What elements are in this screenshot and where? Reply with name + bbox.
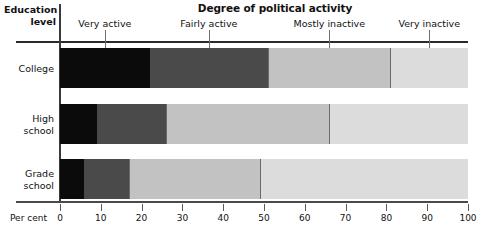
bar-high-school: [60, 104, 468, 144]
x-axis-title: Per cent: [10, 213, 47, 223]
x-tick-label: 100: [459, 213, 476, 223]
x-tick-label: 90: [421, 213, 432, 223]
bar-segment-fairly-active: [150, 48, 268, 88]
bar-grade-school: [60, 159, 468, 199]
bar-segment-very-inactive: [390, 48, 468, 88]
chart-title: Degree of political activity: [130, 2, 420, 14]
plot-bottom-rule: [16, 201, 468, 203]
legend-label-very-active: Very active: [78, 18, 131, 29]
category-label-1: College: [0, 63, 54, 75]
bar-segment-mostly-inactive: [129, 159, 260, 199]
x-tick-label: 60: [299, 213, 310, 223]
x-tick-label: 20: [136, 213, 147, 223]
legend-label-very-inactive: Very inactive: [398, 18, 460, 29]
x-tick-label: 50: [258, 213, 269, 223]
bar-segment-very-inactive: [329, 104, 468, 144]
x-tick: [142, 204, 143, 211]
bar-segment-very-active: [60, 159, 84, 199]
x-tick: [223, 204, 224, 211]
category-label-3: Gradeschool: [0, 168, 54, 191]
x-tick: [182, 204, 183, 211]
bar-college: [60, 48, 468, 88]
x-tick-label: 80: [381, 213, 392, 223]
plot-top-rule: [16, 41, 468, 43]
bar-segment-mostly-inactive: [268, 48, 390, 88]
x-tick: [264, 204, 265, 211]
x-tick: [427, 204, 428, 211]
x-tick-label: 70: [340, 213, 351, 223]
category-label-line1: High: [0, 113, 54, 125]
x-tick: [60, 204, 61, 211]
bar-segment-fairly-active: [97, 104, 166, 144]
bar-segment-very-inactive: [260, 159, 468, 199]
x-tick-label: 30: [177, 213, 188, 223]
category-label-line2: school: [0, 180, 54, 192]
legend-label-mostly-inactive: Mostly inactive: [294, 18, 366, 29]
category-label-line2: school: [0, 125, 54, 137]
y-axis-title-line1: Education: [4, 4, 56, 16]
x-tick-label: 40: [217, 213, 228, 223]
category-label-line1: Grade: [0, 168, 54, 180]
bar-segment-very-active: [60, 48, 150, 88]
category-label-2: Highschool: [0, 113, 54, 136]
x-tick: [346, 204, 347, 211]
x-tick: [305, 204, 306, 211]
bar-segment-fairly-active: [84, 159, 129, 199]
x-tick: [386, 204, 387, 211]
y-axis-title-line2: level: [4, 16, 56, 28]
x-tick: [101, 204, 102, 211]
x-tick-label: 0: [57, 213, 63, 223]
y-axis-title: Education level: [4, 4, 56, 27]
x-tick: [468, 204, 469, 211]
x-tick-label: 10: [95, 213, 106, 223]
bar-segment-mostly-inactive: [166, 104, 329, 144]
bar-segment-very-active: [60, 104, 97, 144]
legend-label-fairly-active: Fairly active: [180, 18, 237, 29]
category-label-line1: College: [0, 63, 54, 75]
